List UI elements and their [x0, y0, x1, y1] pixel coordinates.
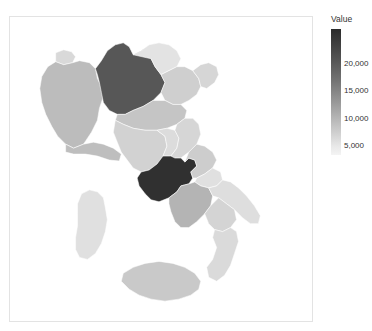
- legend-colorbar: [331, 29, 341, 155]
- legend-tick-15000: 15,000: [344, 86, 368, 95]
- italy-choropleth-map[interactable]: [10, 17, 312, 321]
- region-piemonte[interactable]: [40, 61, 104, 148]
- legend-tick-5000: 5,000: [344, 141, 364, 150]
- legend-tick-20000: 20,000: [344, 59, 368, 68]
- legend-tick-10000: 10,000: [344, 114, 368, 123]
- region-sicilia[interactable]: [121, 261, 200, 301]
- map-panel[interactable]: [9, 16, 313, 322]
- legend: Value 20,000 15,000 10,000 5,000: [329, 14, 372, 161]
- legend-title: Value: [331, 14, 372, 25]
- legend-body: 20,000 15,000 10,000 5,000: [329, 29, 372, 161]
- region-calabria[interactable]: [207, 228, 239, 282]
- choropleth-figure: Value 20,000 15,000 10,000 5,000: [0, 0, 372, 331]
- region-sardegna[interactable]: [76, 190, 108, 260]
- chart-title: [0, 0, 313, 5]
